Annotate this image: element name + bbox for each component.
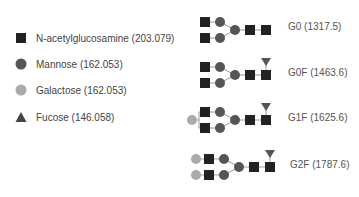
- legend-galactose: Galactose (162.053): [14, 82, 127, 98]
- glcnac-square-icon: [200, 33, 210, 43]
- glycan-g0: [180, 8, 280, 48]
- glcnac-square-icon: [200, 107, 210, 117]
- galactose-circle-icon: [187, 115, 197, 125]
- legend-fucose-label: Fucose (146.058): [36, 112, 114, 123]
- legend-glcnac-label: N-acetylglucosamine (203.079): [36, 33, 174, 44]
- mannose-circle-icon: [14, 57, 28, 71]
- mannose-circle-icon: [234, 162, 244, 172]
- glcnac-square-icon: [265, 162, 275, 172]
- glcnac-square-icon: [200, 62, 210, 72]
- glycan-g1f: [180, 98, 280, 138]
- glcnac-square-icon: [245, 25, 255, 35]
- glcnac-square-icon: [249, 162, 259, 172]
- glcnac-square-icon: [14, 31, 28, 45]
- galactose-circle-icon: [191, 170, 201, 180]
- legend-mannose: Mannose (162.053): [14, 56, 123, 72]
- glycan-g1f-label: G1F (1625.6): [288, 112, 347, 123]
- mannose-circle-icon: [219, 154, 229, 164]
- legend-glcnac: N-acetylglucosamine (203.079): [14, 30, 174, 46]
- fucose-triangle-icon: [261, 58, 271, 66]
- glcnac-square-icon: [261, 115, 271, 125]
- glcnac-square-icon: [261, 25, 271, 35]
- mannose-circle-icon: [215, 78, 225, 88]
- galactose-circle-icon: [14, 83, 28, 97]
- glycan-g2f-label: G2F (1787.6): [290, 159, 349, 170]
- mannose-circle-icon: [215, 123, 225, 133]
- glcnac-square-icon: [245, 70, 255, 80]
- legend-galactose-label: Galactose (162.053): [36, 85, 127, 96]
- fucose-triangle-icon: [261, 103, 271, 111]
- legend-mannose-label: Mannose (162.053): [36, 59, 123, 70]
- glycan-g0f-label: G0F (1463.6): [288, 67, 347, 78]
- glcnac-square-icon: [261, 70, 271, 80]
- mannose-circle-icon: [215, 33, 225, 43]
- glycan-g2f: [180, 145, 280, 185]
- legend-fucose: Fucose (146.058): [14, 109, 114, 125]
- fucose-triangle-icon: [265, 150, 275, 158]
- glcnac-square-icon: [200, 123, 210, 133]
- galactose-circle-icon: [191, 154, 201, 164]
- glcnac-square-icon: [200, 78, 210, 88]
- glcnac-square-icon: [200, 17, 210, 27]
- mannose-circle-icon: [215, 17, 225, 27]
- fucose-triangle-icon: [14, 110, 28, 124]
- glcnac-square-icon: [204, 154, 214, 164]
- mannose-circle-icon: [215, 62, 225, 72]
- glcnac-square-icon: [204, 170, 214, 180]
- mannose-circle-icon: [215, 107, 225, 117]
- mannose-circle-icon: [230, 115, 240, 125]
- mannose-circle-icon: [230, 25, 240, 35]
- mannose-circle-icon: [230, 70, 240, 80]
- mannose-circle-icon: [219, 170, 229, 180]
- glycan-g0f: [180, 53, 280, 93]
- glcnac-square-icon: [245, 115, 255, 125]
- glycan-g0-label: G0 (1317.5): [288, 21, 341, 32]
